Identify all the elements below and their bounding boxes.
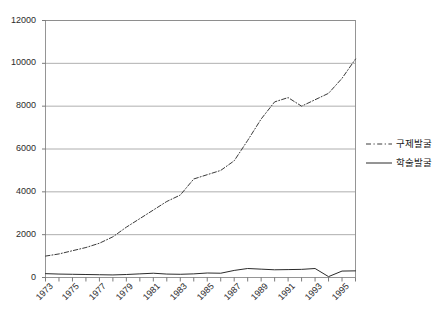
x-axis-tick-label-text: 1987 <box>235 281 236 282</box>
x-axis-tick-label-text: 1979 <box>127 281 128 282</box>
x-axis-tick-label-text: 1983 <box>181 281 182 282</box>
x-axis-tick-label-value: 1983 <box>168 281 189 302</box>
x-axis-tick-label-text: 1993 <box>316 281 317 282</box>
legend-solid-line-icon <box>366 158 392 168</box>
x-axis-tick-label-value: 1977 <box>87 281 108 302</box>
legend-label-rescue-excavation: 구제발굴 <box>396 138 432 149</box>
x-axis-tick-label-value: 1975 <box>60 281 81 302</box>
x-axis-tick-label-value: 1973 <box>33 281 54 302</box>
x-axis-tick-label-text: 1985 <box>208 281 209 282</box>
legend-item-academic-excavation[interactable]: 학술발굴 <box>366 153 440 172</box>
x-axis-tick-label-value: 1985 <box>195 281 216 302</box>
x-axis-tick-label-value: 1987 <box>222 281 243 302</box>
x-axis-tick-label-value: 1979 <box>114 281 135 302</box>
x-axis-tick-label-text: 1991 <box>289 281 290 282</box>
x-axis-tick-label-text: 1977 <box>100 281 101 282</box>
legend-label-academic-excavation: 학술발굴 <box>396 157 432 168</box>
x-axis-tick-label-text: 1995 <box>343 281 344 282</box>
x-axis-tick-label-value: 1993 <box>303 281 324 302</box>
x-axis-tick-label-value: 1995 <box>330 281 351 302</box>
x-axis-tick-label-text: 1973 <box>46 281 47 282</box>
chart-legend: 구제발굴 학술발굴 <box>366 134 440 172</box>
chart-container: 020004000600080001000012000 197319751977… <box>0 0 440 324</box>
legend-dash-dot-line-icon <box>366 139 392 149</box>
x-axis-tick-label-text: 1975 <box>73 281 74 282</box>
x-axis-tick-label-value: 1991 <box>276 281 297 302</box>
x-axis-tick-label-text: 1981 <box>154 281 155 282</box>
x-axis-tick-label-value: 1981 <box>141 281 162 302</box>
x-axis-tick-label-value: 1989 <box>249 281 270 302</box>
x-axis-tick-label-text: 1989 <box>262 281 263 282</box>
legend-item-rescue-excavation[interactable]: 구제발굴 <box>366 134 440 153</box>
